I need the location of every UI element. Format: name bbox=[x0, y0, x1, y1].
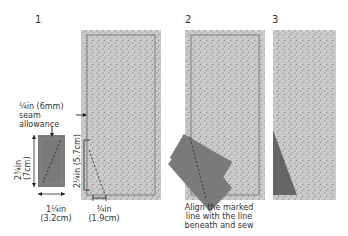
piece-height-label: 2¾in (7cm) bbox=[14, 156, 32, 180]
step1-strip bbox=[81, 30, 161, 200]
step-number-2: 2 bbox=[185, 14, 191, 25]
step1-small-piece bbox=[38, 135, 65, 187]
mark-width-label: ¾in (1.9cm) bbox=[84, 205, 124, 223]
step-number-3: 3 bbox=[272, 14, 278, 25]
step2-caption-line-2: line with the line bbox=[171, 212, 267, 221]
mark-height-label: 2¼in (5.7cm) bbox=[73, 134, 82, 188]
piece-width-dimension bbox=[38, 192, 65, 196]
piece-width-label: 1¼in (3.2cm) bbox=[36, 205, 76, 223]
step2-caption: Align the marked line with the line bene… bbox=[171, 203, 267, 230]
seam-allowance-label: ¼in (6mm) seam allowance bbox=[19, 102, 64, 129]
seam-allowance-line-3: allowance bbox=[19, 120, 64, 129]
mark-width-line-2: (1.9cm) bbox=[84, 214, 124, 223]
step2-caption-line-1: Align the marked bbox=[171, 203, 267, 212]
step-number-1: 1 bbox=[35, 14, 41, 25]
piece-width-line-2: (3.2cm) bbox=[36, 214, 76, 223]
piece-height-dimension bbox=[32, 135, 36, 187]
step2-caption-line-3: beneath and sew bbox=[171, 221, 267, 230]
step3-strip bbox=[273, 30, 336, 200]
piece-height-line-2: (7cm) bbox=[23, 156, 32, 180]
mark-width-line-1: ¾in bbox=[84, 205, 124, 214]
piece-width-line-1: 1¼in bbox=[36, 205, 76, 214]
piece-height-line-1: 2¾in bbox=[14, 156, 23, 180]
seam-allowance-line-1: ¼in (6mm) bbox=[19, 102, 64, 111]
seam-allowance-line-2: seam bbox=[19, 111, 64, 120]
